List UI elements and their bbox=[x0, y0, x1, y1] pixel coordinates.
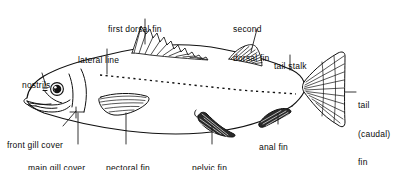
label-text-line: nostrils bbox=[22, 81, 70, 91]
label-tail-stalk: tail stalk bbox=[274, 43, 330, 91]
label-text-line: anal fin bbox=[259, 143, 311, 153]
label-text-line: lateral line bbox=[78, 56, 142, 66]
label-text-line: first dorsal fin bbox=[108, 25, 190, 35]
fish-anatomy-diagram: first dorsal fin second dorsal fin later… bbox=[0, 0, 398, 170]
label-tail-caudal-fin: tail (caudal) fin bbox=[358, 82, 398, 170]
label-text-line: fin bbox=[358, 158, 398, 168]
label-pectoral-fin: pectoral fin bbox=[106, 145, 176, 170]
label-main-gill-cover: main gill cover bbox=[28, 145, 114, 170]
label-text-line: (caudal) bbox=[358, 130, 398, 140]
label-text-line: main gill cover bbox=[28, 164, 114, 170]
label-anal-fin: anal fin bbox=[259, 124, 311, 170]
label-pelvic-fin: pelvic fin bbox=[192, 145, 254, 170]
label-text-line: second bbox=[233, 25, 303, 35]
label-text-line: pelvic fin bbox=[192, 164, 254, 170]
pectoral-fin bbox=[99, 93, 149, 115]
label-text-line: tail bbox=[358, 101, 398, 111]
label-lateral-line: lateral line bbox=[78, 37, 142, 85]
label-text-line: pectoral fin bbox=[106, 164, 176, 170]
label-text-line: tail stalk bbox=[274, 62, 330, 72]
label-nostrils: nostrils bbox=[22, 62, 70, 110]
